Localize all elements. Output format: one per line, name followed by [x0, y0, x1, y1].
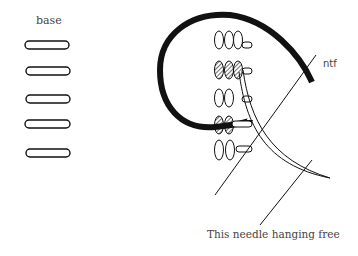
base-ovals — [25, 41, 70, 157]
base-oval-3 — [26, 95, 70, 103]
base-oval-4 — [25, 120, 70, 128]
base-oval-2 — [26, 67, 70, 75]
stitch-columns — [215, 31, 253, 160]
diagram-canvas — [0, 0, 358, 256]
base-oval-1 — [25, 41, 69, 49]
needle — [239, 70, 330, 178]
base-oval-5 — [26, 149, 70, 157]
